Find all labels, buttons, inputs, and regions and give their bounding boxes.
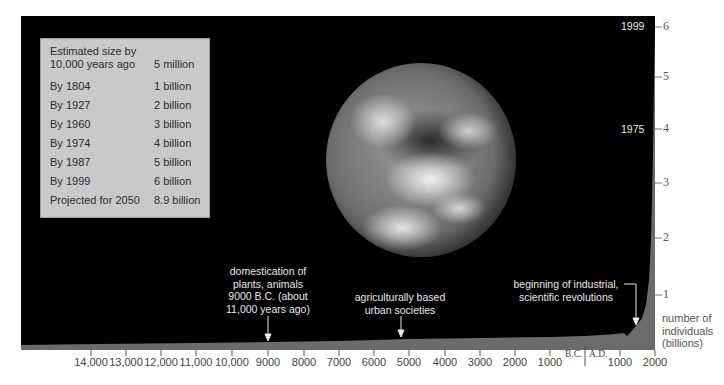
y-axis-label: number of individuals (billions) xyxy=(662,312,713,350)
y-tick-label: 4 xyxy=(663,121,669,136)
x-tick-label: 13,000 xyxy=(109,356,143,368)
x-tick-label: 12,000 xyxy=(144,356,178,368)
table-label: By 1804 xyxy=(50,77,154,96)
table-label: By 1999 xyxy=(50,172,154,191)
table-label: By 1974 xyxy=(50,134,154,153)
table-value: 3 billion xyxy=(154,115,191,134)
x-tick-label: 4000 xyxy=(433,356,457,368)
annotation-agriculture: agriculturally based urban societies xyxy=(350,291,450,316)
table-value: 2 billion xyxy=(154,96,191,115)
x-tick-label: 5000 xyxy=(397,356,421,368)
table-row: By 19744 billion xyxy=(50,134,209,153)
x-tick-label: 1000 xyxy=(608,356,632,368)
table-row: Estimated size by10,000 years ago 5 mill… xyxy=(50,45,209,71)
table-row: By 19996 billion xyxy=(50,172,209,191)
x-tick-label: 3000 xyxy=(468,356,492,368)
table-row: By 19603 billion xyxy=(50,115,209,134)
population-chart: Estimated size by10,000 years ago 5 mill… xyxy=(0,0,724,385)
table-value: 1 billion xyxy=(154,77,191,96)
x-tick-label: 7000 xyxy=(327,356,351,368)
y-tick-label: 5 xyxy=(663,69,669,84)
year-label-1975: 1975 xyxy=(621,123,644,135)
table-row: By 19272 billion xyxy=(50,96,209,115)
year-label-1999: 1999 xyxy=(621,20,644,32)
table-label: By 1960 xyxy=(50,115,154,134)
table-row: By 19875 billion xyxy=(50,153,209,172)
era-label-bc: B.C. xyxy=(565,349,582,359)
table-label: By 1987 xyxy=(50,153,154,172)
y-tick-label: 3 xyxy=(663,175,669,190)
table-value: 4 billion xyxy=(154,134,191,153)
y-axis-ticks xyxy=(655,27,662,295)
table-label: 10,000 years ago xyxy=(50,58,135,70)
annotation-industrial: beginning of industrial, scientific revo… xyxy=(510,278,622,303)
x-tick-label: 6000 xyxy=(362,356,386,368)
table-value: 5 million xyxy=(154,58,194,71)
population-milestones-table: Estimated size by10,000 years ago 5 mill… xyxy=(40,38,210,218)
table-label: By 1927 xyxy=(50,96,154,115)
annotation-domestication: domestication of plants, animals 9000 B.… xyxy=(218,265,318,315)
table-row: By 18041 billion xyxy=(50,77,209,96)
table-label: Projected for 2050 xyxy=(50,191,154,210)
x-tick-label: 1000 xyxy=(538,356,562,368)
table-value: 5 billion xyxy=(154,153,191,172)
x-tick-label: 9000 xyxy=(256,356,280,368)
table-value: 6 billion xyxy=(154,172,191,191)
table-row: Projected for 20508.9 billion xyxy=(50,191,209,210)
x-tick-label: 14,000 xyxy=(74,356,108,368)
x-tick-label: 2000 xyxy=(503,356,527,368)
x-tick-label: 11,000 xyxy=(180,356,213,368)
x-tick-label: 8000 xyxy=(292,356,316,368)
y-tick-label: 6 xyxy=(663,19,669,34)
y-tick-label: 2 xyxy=(663,230,669,245)
x-tick-label: 10,000 xyxy=(215,356,249,368)
table-label: Estimated size by xyxy=(50,45,136,57)
x-tick-label: 2000 xyxy=(643,356,667,368)
table-value: 8.9 billion xyxy=(154,191,200,210)
y-tick-label: 1 xyxy=(663,287,669,302)
era-label-ad: A.D. xyxy=(589,349,607,359)
